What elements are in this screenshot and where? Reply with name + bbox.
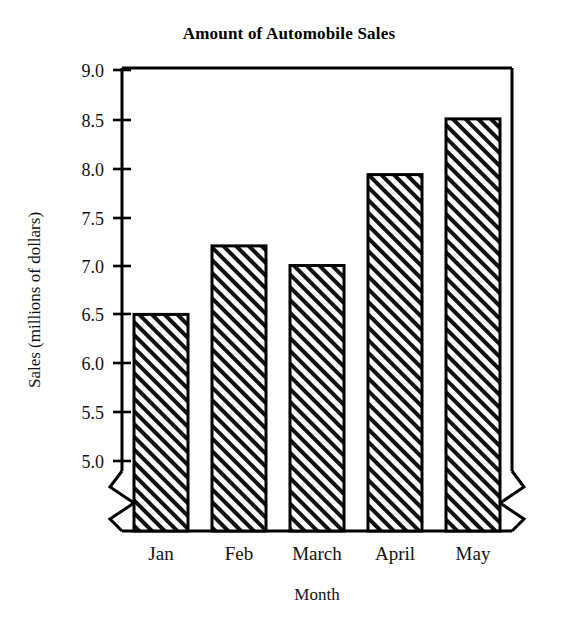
y-tick-label: 7.5 <box>82 209 105 229</box>
y-tick-label: 9.0 <box>82 61 105 81</box>
y-tick-label: 8.5 <box>82 111 105 131</box>
y-axis-tick-labels: 9.0 8.5 8.0 7.5 7.0 6.5 6.0 5.5 5.0 <box>82 61 105 472</box>
x-tick-label-may: May <box>456 543 491 564</box>
bar-feb <box>212 246 266 531</box>
y-tick-label: 7.0 <box>82 257 105 277</box>
y-tick-label: 5.5 <box>82 403 105 423</box>
bar-series <box>134 119 500 531</box>
x-tick-label-april: April <box>375 543 415 564</box>
bar-april <box>368 175 422 531</box>
chart-container: Amount of Automobile Sales <box>0 0 578 632</box>
y-tick-label: 6.0 <box>82 354 105 374</box>
y-axis-title: Sales (millions of dollars) <box>25 212 44 388</box>
x-tick-label-jan: Jan <box>148 543 174 564</box>
y-tick-label: 6.5 <box>82 305 105 325</box>
x-axis-tick-labels: JanFebMarchAprilMay <box>148 543 491 564</box>
bar-march <box>290 266 344 532</box>
y-axis-break-left <box>110 471 134 531</box>
y-axis-break-right <box>500 471 524 531</box>
x-tick-label-march: March <box>292 543 342 564</box>
y-tick-label: 5.0 <box>82 452 105 472</box>
y-tick-label: 8.0 <box>82 160 105 180</box>
bar-chart-plot: 9.0 8.5 8.0 7.5 7.0 6.5 6.0 5.5 5.0 JanF… <box>0 0 578 632</box>
x-axis-title: Month <box>294 585 340 604</box>
bar-jan <box>134 314 188 531</box>
bar-may <box>446 119 500 531</box>
x-tick-label-feb: Feb <box>225 543 254 564</box>
